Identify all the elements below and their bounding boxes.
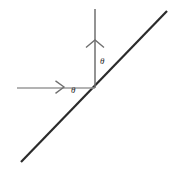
diagram-canvas (0, 0, 169, 172)
horizontal-arrowhead (56, 81, 65, 94)
theta-label-horizontal-incline: θ (71, 86, 75, 95)
inclined-plane-diagram: θ θ (0, 0, 169, 172)
incline-line (21, 11, 167, 162)
theta-label-vertical-incline: θ (100, 57, 104, 66)
